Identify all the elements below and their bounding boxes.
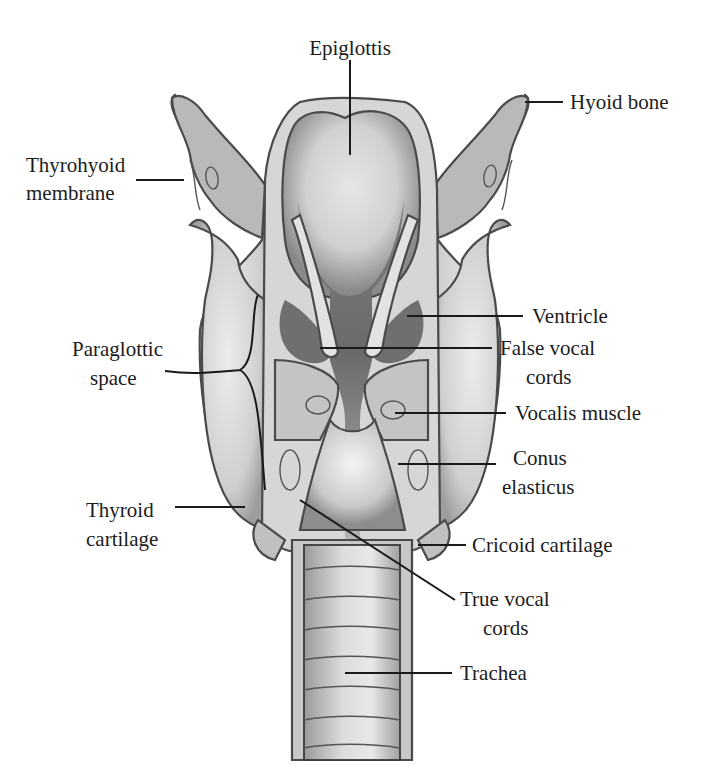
label-conus-elasticus-line2: elasticus xyxy=(502,475,574,499)
label-trachea: Trachea xyxy=(460,661,528,685)
label-thyroid-cartilage-line1: Thyroid xyxy=(86,498,154,522)
label-vocalis-muscle: Vocalis muscle xyxy=(515,401,641,425)
label-thyrohyoid-membrane-line2: membrane xyxy=(26,181,115,205)
label-true-vocal-cords-line2: cords xyxy=(483,616,529,640)
laryngeal-body xyxy=(253,98,449,560)
label-cricoid-cartilage: Cricoid cartilage xyxy=(472,533,613,557)
label-thyroid-cartilage-line2: cartilage xyxy=(86,527,158,551)
label-false-vocal-cords-line1: False vocal xyxy=(500,336,595,360)
label-paraglottic-space-line1: Paraglottic xyxy=(72,337,163,361)
label-true-vocal-cords-line1: True vocal xyxy=(460,587,550,611)
label-paraglottic-space-line2: space xyxy=(90,366,137,390)
label-epiglottis: Epiglottis xyxy=(309,36,391,60)
label-ventricle: Ventricle xyxy=(532,304,608,328)
label-conus-elasticus-line1: Conus xyxy=(513,446,567,470)
label-false-vocal-cords-line2: cords xyxy=(526,365,572,389)
trachea-illustration xyxy=(292,540,412,760)
label-thyrohyoid-membrane-line1: Thyrohyoid xyxy=(26,153,126,177)
label-hyoid-bone: Hyoid bone xyxy=(570,90,669,114)
larynx-diagram: Epiglottis Hyoid bone Thyrohyoid membran… xyxy=(0,0,705,769)
